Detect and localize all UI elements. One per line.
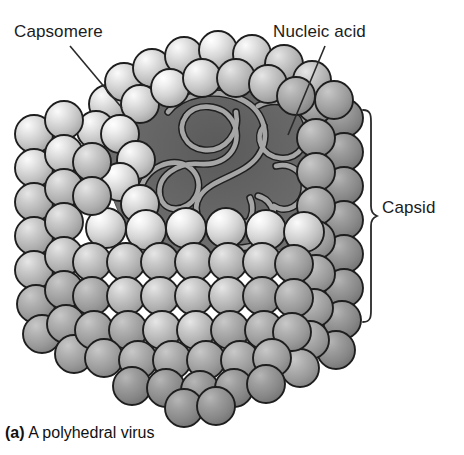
label-nucleic-acid: Nucleic acid xyxy=(273,22,366,42)
figure-caption: (a) A polyhedral virus xyxy=(5,424,154,442)
virus-body xyxy=(15,31,377,427)
virus-illustration xyxy=(0,0,464,455)
capsid-brace-icon xyxy=(363,110,377,322)
label-capsomere: Capsomere xyxy=(14,22,103,42)
label-capsid: Capsid xyxy=(382,198,436,218)
capsomere-group-front-face xyxy=(73,243,313,427)
polyhedral-virus-figure: Capsomere Nucleic acid Capsid (a) A poly… xyxy=(0,0,464,455)
caption-marker: (a) xyxy=(5,424,25,441)
caption-body-text: A polyhedral virus xyxy=(28,424,154,441)
